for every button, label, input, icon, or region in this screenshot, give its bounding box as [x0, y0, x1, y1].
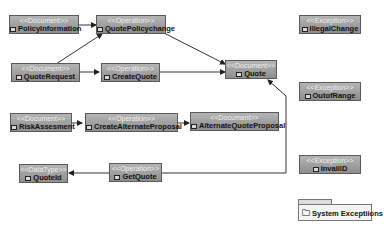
- package-name: System Exceptiions: [312, 209, 383, 218]
- node-name: CreateAlternateProposal: [94, 122, 182, 131]
- node-name: OutofRange: [313, 91, 356, 100]
- class-icon: [114, 175, 120, 180]
- node-name: InvalilD: [321, 164, 348, 173]
- stereotype-label: <<Operation>>: [110, 165, 161, 172]
- stereotype-label: <<Document>>: [226, 62, 276, 69]
- node-name: RiskAssesment: [19, 122, 75, 131]
- node-name: Quote: [244, 69, 266, 78]
- node-name: QuotePolicychange: [105, 24, 175, 33]
- stereotype-label: <<Exception>>: [300, 84, 360, 91]
- stereotype-label: <<DataType>>: [20, 166, 67, 173]
- node-alternate-quote-proposal[interactable]: <<Document>> AlternateQuoteProposal: [190, 112, 279, 131]
- class-icon: [236, 72, 242, 77]
- stereotype-label: <<Exception>>: [300, 17, 360, 24]
- node-out-of-range[interactable]: <<Exception>> OutofRange: [299, 82, 361, 101]
- stereotype-label: <<Document>>: [11, 115, 71, 122]
- node-name: PolicyInformation: [18, 24, 81, 33]
- node-quote-request[interactable]: <<Document>> QuoteRequest: [11, 63, 80, 82]
- node-policy-information[interactable]: <<Document>> PolicyInformation: [9, 15, 79, 34]
- node-illegal-change[interactable]: <<Exception>> IllegalChange: [299, 15, 361, 34]
- node-get-quote[interactable]: <<Operation>> GetQuote: [109, 163, 162, 182]
- node-name: IllegalChange: [310, 24, 359, 33]
- stereotype-label: <<Exception>>: [300, 157, 360, 164]
- node-risk-assesment[interactable]: <<Document>> RiskAssesment: [10, 113, 72, 132]
- class-icon: [11, 125, 17, 130]
- folder-icon: 🗀: [302, 209, 310, 218]
- stereotype-label: <<Operation>>: [97, 17, 165, 24]
- class-icon: [10, 27, 16, 32]
- class-icon: [302, 27, 308, 32]
- node-quote-policy-change[interactable]: <<Operation>> QuotePolicychange: [96, 15, 166, 34]
- class-icon: [305, 94, 311, 99]
- node-create-alternate-proposal[interactable]: <<Operation>> CreateAlternateProposal: [85, 113, 178, 132]
- class-icon: [16, 75, 22, 80]
- stereotype-label: <<Document>>: [191, 114, 278, 121]
- class-icon: [97, 27, 103, 32]
- node-name: QuoteId: [33, 173, 61, 182]
- package-system-exceptions[interactable]: 🗀 System Exceptiions: [298, 199, 372, 221]
- class-icon: [104, 75, 110, 80]
- node-name: AlternateQuoteProposal: [199, 121, 285, 130]
- edge-quoterequest-quotepolicychange: [56, 34, 102, 64]
- class-icon: [191, 124, 197, 129]
- stereotype-label: <<Document>>: [10, 17, 78, 24]
- node-name: QuoteRequest: [24, 72, 75, 81]
- datatype-icon: [25, 176, 31, 181]
- stereotype-label: <<Operation>>: [102, 65, 159, 72]
- node-name: CreateQuote: [112, 72, 157, 81]
- stereotype-label: <<Operation>>: [86, 115, 177, 122]
- node-quote[interactable]: <<Document>> Quote: [225, 60, 277, 79]
- node-name: GetQuote: [122, 172, 156, 181]
- node-invalid-id[interactable]: <<Exception>> InvalilD: [299, 155, 361, 174]
- stereotype-label: <<Document>>: [12, 65, 79, 72]
- node-quote-id[interactable]: <<DataType>> QuoteId: [19, 164, 68, 183]
- node-create-quote[interactable]: <<Operation>> CreateQuote: [101, 63, 160, 82]
- class-icon: [313, 167, 319, 172]
- edge-quotepolicychange-quote: [164, 33, 225, 64]
- class-icon: [86, 125, 92, 130]
